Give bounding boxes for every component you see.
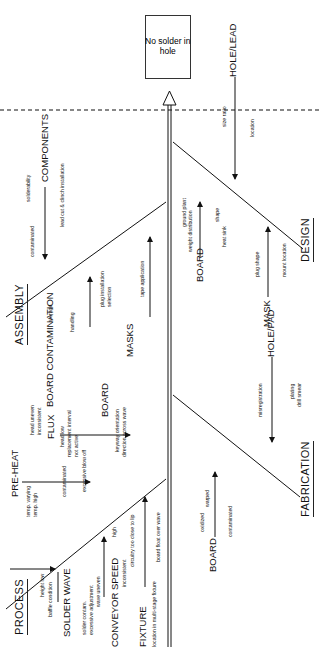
cause-label: wave uneven: [96, 576, 101, 607]
cause-label: selection: [107, 287, 112, 307]
cause-label: tape application: [140, 261, 145, 297]
cause-label: plug shape: [255, 252, 260, 277]
cause-label: mount location: [282, 243, 287, 277]
group-conveyor-speed: CONVEYOR SPEED: [110, 558, 120, 647]
cause-label: location in multi-stage fixture: [152, 581, 157, 647]
cause-label: solder contam.: [82, 601, 87, 635]
cause-label: storage: [48, 305, 53, 322]
category-fabrication: FABRICATION: [300, 441, 314, 517]
cause-label: misregistration: [258, 383, 263, 417]
cause-label: handling: [70, 312, 75, 332]
group-pre-heat: PRE-HEAT: [10, 450, 20, 497]
cause-label: drill smear: [297, 383, 302, 407]
cause-label: plug installation: [100, 271, 105, 307]
group-fixture: FIXTURE: [138, 606, 148, 647]
group-solder-wave: SOLDER WAVE: [62, 568, 72, 637]
group-components: COMPONENTS: [40, 114, 50, 182]
cause-label: replacement interval: [67, 410, 72, 457]
group-board-fabrication: BOARD: [208, 538, 218, 572]
effect-label: No solder in hole: [137, 37, 199, 57]
fishbone-diagram: No solder in hole PROCESS ASSEMBLY FABRI…: [0, 0, 320, 657]
category-design: DESIGN: [300, 218, 314, 262]
cause-label: excessive blow off: [82, 450, 87, 492]
cause-label: size ratio: [222, 106, 227, 127]
cause-label: temp. high: [33, 493, 38, 517]
cause-label: shape: [215, 208, 220, 222]
cause-label: inconsistent: [37, 408, 42, 435]
cause-label: temp. varying: [26, 486, 31, 517]
cause-label: keyway orientation: [115, 409, 120, 452]
cause-label: plating: [290, 384, 295, 399]
diagram-rotated-layer: No solder in hole PROCESS ASSEMBLY FABRI…: [0, 0, 320, 657]
cause-label: contaminated: [228, 506, 233, 537]
cause-label: head low: [60, 426, 65, 447]
cause-label: contaminated: [62, 466, 67, 497]
group-flux: FLUX: [46, 415, 56, 439]
cause-label: not active: [74, 435, 79, 457]
cause-label: oxidized: [200, 513, 205, 532]
cause-label: excessive adjustment: [89, 585, 94, 635]
cause-label: heat sink: [222, 226, 227, 247]
category-process: PROCESS: [14, 579, 28, 635]
cause-label: solderability: [26, 175, 31, 202]
cause-label: contaminated: [30, 226, 35, 257]
group-hole-lead: HOLE/LEAD: [228, 24, 238, 77]
category-assembly: ASSEMBLY: [14, 284, 28, 345]
cause-label: head uneven: [30, 405, 35, 435]
effect-box: No solder in hole: [145, 15, 191, 79]
cause-label: weight distribution: [188, 210, 193, 252]
cause-label: board float over wave: [156, 512, 161, 562]
group-masks: MASKS: [125, 324, 135, 357]
cause-label: height low: [40, 574, 45, 597]
cause-label: circuitry too close to lip: [130, 515, 135, 567]
group-board-process: BOARD: [100, 383, 110, 417]
cause-label: location: [250, 119, 255, 137]
cause-label: high: [112, 527, 117, 537]
cause-label: warped: [205, 490, 210, 507]
group-board-design: BOARD: [195, 248, 205, 282]
cause-label: baffle condition: [48, 582, 53, 617]
cause-label: inconsistent: [122, 560, 127, 587]
cause-label: direction across wave: [122, 407, 127, 457]
cause-label: lead cut & clinch installation: [60, 163, 65, 227]
group-hole-pad: HOLE/PAD: [266, 310, 276, 357]
